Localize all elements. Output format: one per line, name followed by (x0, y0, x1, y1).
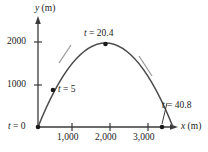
projectile-trajectory-figure: y (m) x (m) 2000 1000 1,000 2,000 3,000 … (0, 0, 208, 152)
x-tick-label-3000: 3,000 (133, 133, 154, 143)
y-axis (35, 16, 41, 127)
marker-dot-t5 (51, 88, 56, 93)
y-tick-label-1000: 1000 (7, 80, 26, 90)
marker-dot-landing (160, 125, 165, 130)
marker-dot-t0 (36, 125, 41, 130)
annotation-t-five-num: 5 (71, 84, 76, 94)
annotation-t-zero-num: 0 (21, 121, 26, 131)
y-axis-title: y (m) (35, 4, 55, 14)
x-tick-label-1000: 1,000 (57, 133, 78, 143)
y-tick-label-2000: 2000 (7, 37, 26, 47)
ascending-tangent-tick (59, 45, 71, 63)
annotation-t-five-eq: = (61, 84, 71, 94)
x-axis (38, 124, 178, 130)
x-tick-label-2000: 2,000 (95, 133, 116, 143)
annotation-t-landing-num: 40.8 (175, 100, 192, 110)
x-axis-title: x (m) (181, 122, 201, 132)
annotation-t-apex-eq: = (87, 28, 97, 38)
marker-dot-apex (103, 42, 108, 47)
x-axis-title-unit: (m) (185, 121, 201, 131)
annotation-t-apex: t = 20.4 (84, 29, 113, 39)
annotation-t-five: t = 5 (58, 85, 76, 95)
annotation-t-apex-num: 20.4 (97, 28, 114, 38)
annotation-t-landing-eq: = (165, 100, 175, 110)
annotation-t-landing: t = 40.8 (162, 101, 191, 111)
annotation-t-zero: t = 0 (8, 122, 26, 132)
plot-canvas (0, 0, 208, 152)
y-axis-title-unit: (m) (39, 3, 55, 13)
annotation-t-zero-eq: = (11, 121, 21, 131)
